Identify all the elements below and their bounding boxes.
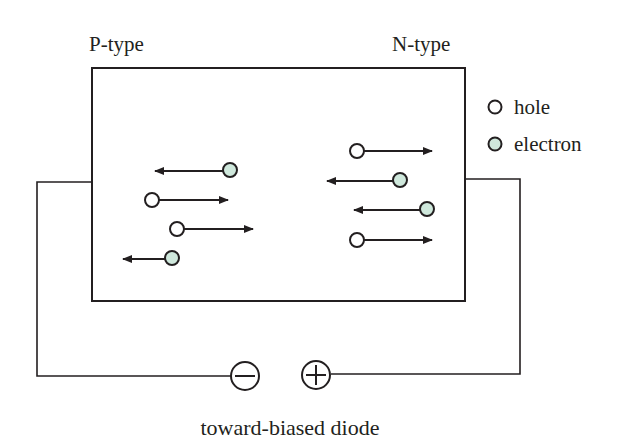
left-wire xyxy=(37,182,231,376)
legend-electron-label: electron xyxy=(514,132,582,156)
diode-diagram: P-type N-type toward-biased diode hole e… xyxy=(0,0,631,447)
hole-right-arrow xyxy=(145,193,228,207)
n-type-label: N-type xyxy=(392,32,450,56)
p-type-label: P-type xyxy=(89,32,144,56)
hole-right-arrow xyxy=(350,233,432,247)
electron-left-arrow xyxy=(354,202,434,216)
plus-terminal-icon xyxy=(302,361,330,389)
electron-legend-icon xyxy=(489,138,502,151)
electron-left-arrow xyxy=(123,251,179,265)
legend: hole electron xyxy=(489,95,583,156)
caption: toward-biased diode xyxy=(201,415,380,440)
semiconductor-block xyxy=(92,68,465,301)
electron-left-arrow xyxy=(155,163,237,177)
legend-hole-label: hole xyxy=(514,95,550,119)
n-region-carriers xyxy=(327,144,434,247)
p-region-carriers xyxy=(123,163,253,265)
electron-left-arrow xyxy=(327,173,407,187)
hole-right-arrow xyxy=(350,144,432,158)
hole-right-arrow xyxy=(170,222,253,236)
hole-legend-icon xyxy=(489,101,502,114)
minus-terminal-icon xyxy=(231,362,259,390)
